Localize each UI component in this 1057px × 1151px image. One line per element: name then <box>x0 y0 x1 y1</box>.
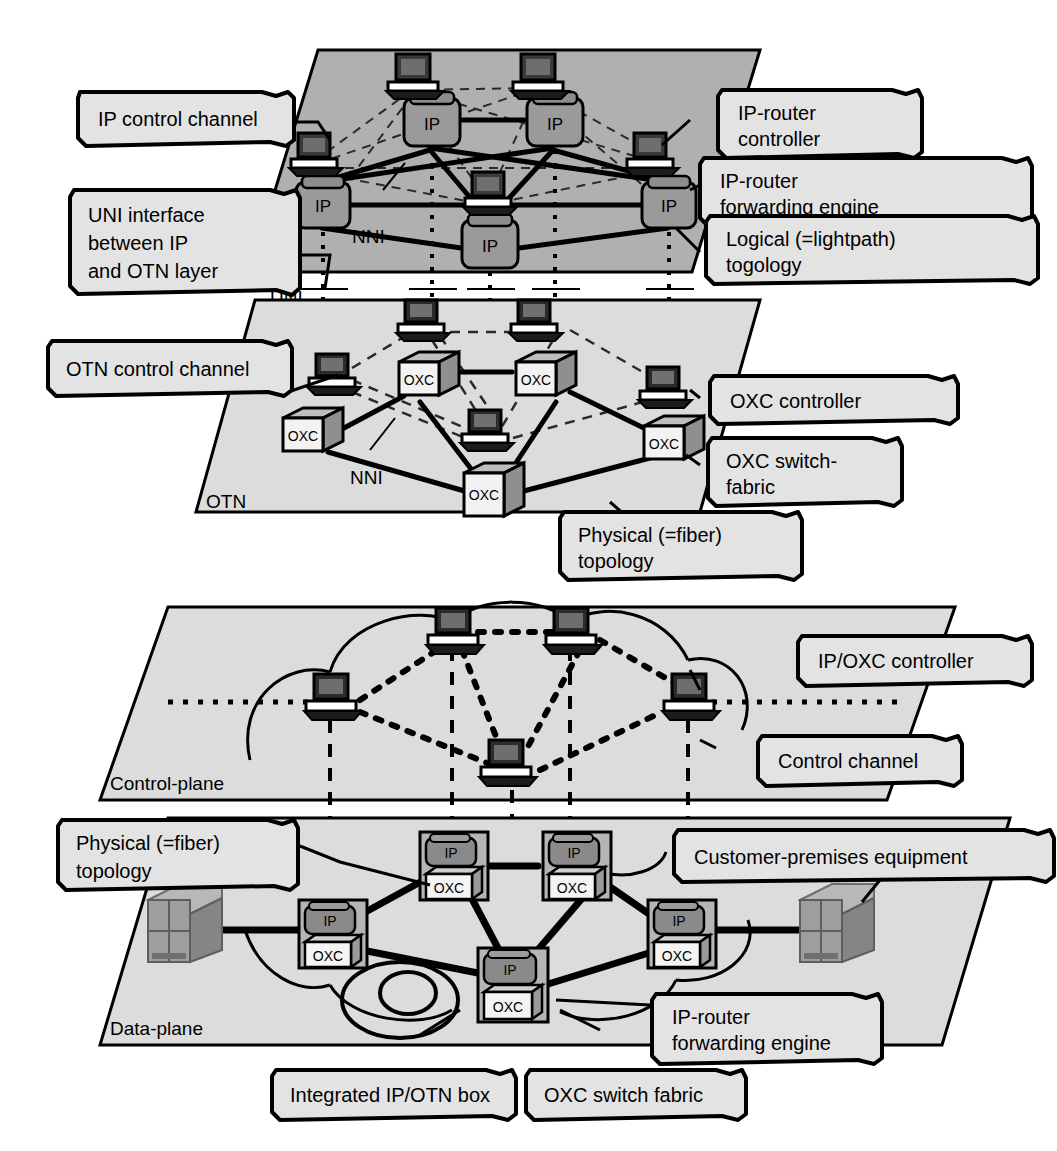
callout-text-line: controller <box>738 128 821 150</box>
cpe-rack[interactable] <box>800 884 874 962</box>
integrated-box[interactable]: IP OXC <box>299 900 367 968</box>
callout-text: OXC controller <box>730 390 861 412</box>
callout-text-line: between IP <box>88 232 188 254</box>
callout-control-channel[interactable]: Control channel <box>758 736 962 786</box>
callout-oxc-switch-fabric-top[interactable]: OXC switch- fabric <box>708 438 902 506</box>
callout-text-line: togology <box>726 254 802 276</box>
integrated-ip-label: IP <box>672 913 685 929</box>
integrated-ip-label: IP <box>323 913 336 929</box>
integrated-ip-label: IP <box>503 962 516 978</box>
callout-text: Customer-premises equipment <box>694 846 968 868</box>
integrated-box[interactable]: IP OXC <box>478 948 548 1022</box>
callout-integrated-box[interactable]: Integrated IP/OTN box <box>272 1070 516 1120</box>
callout-text-line: IP-router <box>738 102 816 124</box>
oxc-label: OXC <box>404 372 434 388</box>
data-plane-label: Data-plane <box>110 1018 203 1039</box>
callout-physical-topology-otn[interactable]: Physical (=fiber) topology <box>560 512 802 580</box>
integrated-ip-label: IP <box>567 845 580 861</box>
callout-text-line: fabric <box>726 476 775 498</box>
control-plane-label: Control-plane <box>110 773 224 794</box>
callout-text: Control channel <box>778 750 918 772</box>
oxc-node[interactable]: OXC <box>283 408 343 451</box>
callout-customer-premises-equipment[interactable]: Customer-premises equipment <box>674 830 1054 882</box>
callout-text-line: IP-router <box>672 1006 750 1028</box>
integrated-box[interactable]: IP OXC <box>648 900 716 968</box>
callout-oxc-controller[interactable]: OXC controller <box>710 376 958 424</box>
ip-router-label: IP <box>315 197 331 216</box>
callout-text-line: Physical (=fiber) <box>578 524 722 546</box>
callout-ip-control-channel[interactable]: IP control channel <box>78 92 294 146</box>
integrated-ip-label: IP <box>444 845 457 861</box>
oxc-label: OXC <box>521 372 551 388</box>
ip-router-node[interactable]: IP <box>404 92 460 146</box>
integrated-oxc-label: OXC <box>557 880 587 896</box>
callout-physical-topology-data[interactable]: Physical (=fiber) topology <box>58 820 298 890</box>
oxc-node[interactable]: OXC <box>399 352 459 395</box>
callout-text-line: topology <box>76 860 152 882</box>
integrated-oxc-label: OXC <box>662 948 692 964</box>
integrated-box[interactable]: IP OXC <box>420 832 488 900</box>
integrated-oxc-label: OXC <box>313 948 343 964</box>
callout-text: OTN control channel <box>66 358 249 380</box>
ip-router-node[interactable]: IP <box>642 176 696 228</box>
callout-ip-router-controller[interactable]: IP-router controller <box>718 90 922 158</box>
otn-plane-label: OTN <box>206 491 246 512</box>
cpe-rack[interactable] <box>148 884 222 962</box>
callout-text: Integrated IP/OTN box <box>290 1084 490 1106</box>
callout-text: OXC switch fabric <box>544 1084 703 1106</box>
callout-uni-interface[interactable]: UNI interface between IP and OTN layer <box>70 190 300 295</box>
callout-text-line: UNI interface <box>88 204 205 226</box>
ip-router-label: IP <box>424 115 440 134</box>
oxc-label: OXC <box>288 428 318 444</box>
callout-text-line: IP-router <box>720 170 798 192</box>
integrated-box[interactable]: IP OXC <box>543 832 611 900</box>
callout-ip-router-forwarding-engine-bottom[interactable]: IP-router forwarding engine <box>652 994 882 1064</box>
callout-text-line: and OTN layer <box>88 260 218 282</box>
integrated-oxc-label: OXC <box>434 880 464 896</box>
callout-text: IP control channel <box>98 108 258 130</box>
oxc-node[interactable]: OXC <box>464 463 524 516</box>
integrated-oxc-label: OXC <box>493 999 523 1015</box>
callout-logical-topology[interactable]: Logical (=lightpath) togology <box>706 216 1038 284</box>
callout-otn-control-channel[interactable]: OTN control channel <box>48 341 292 396</box>
callout-oxc-switch-fabric-bottom[interactable]: OXC switch fabric <box>526 1070 746 1120</box>
oxc-node[interactable]: OXC <box>516 352 576 395</box>
callout-text-line: forwarding engine <box>672 1032 831 1054</box>
nni-otn-label: NNI <box>350 467 383 488</box>
oxc-label: OXC <box>649 436 679 452</box>
ip-router-node[interactable]: IP <box>527 92 583 146</box>
callout-ip-oxc-controller[interactable]: IP/OXC controller <box>798 636 1032 686</box>
callout-text: IP/OXC controller <box>818 650 974 672</box>
nni-ip-label: NNI <box>352 226 385 247</box>
oxc-label: OXC <box>469 487 499 503</box>
network-architecture-diagram: IP IP IP IP IP <box>0 0 1057 1151</box>
diagram-canvas: IP IP IP IP IP <box>0 0 1057 1151</box>
callout-text-line: OXC switch- <box>726 450 837 472</box>
callout-text-line: Logical (=lightpath) <box>726 228 896 250</box>
ip-router-node[interactable]: IP <box>462 214 518 268</box>
ip-router-label: IP <box>661 197 677 216</box>
oxc-node[interactable]: OXC <box>644 416 704 459</box>
ip-router-node[interactable]: IP <box>296 176 350 228</box>
callout-text-line: Physical (=fiber) <box>76 832 220 854</box>
callout-text-line: topology <box>578 550 654 572</box>
ip-router-label: IP <box>547 115 563 134</box>
ip-router-label: IP <box>482 237 498 256</box>
